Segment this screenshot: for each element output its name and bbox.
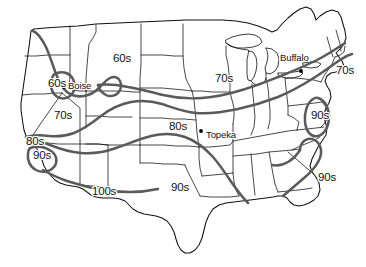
border-ar-tx-west — [185, 165, 200, 196]
border-la-south — [200, 196, 239, 197]
border-wv-va — [288, 115, 299, 130]
city-dot-topeka — [199, 129, 203, 133]
border-ne-ks — [140, 118, 196, 120]
border-pacific-nw-east — [69, 26, 70, 88]
border-al-ga-vertical — [269, 152, 278, 192]
border-oh-pa-vertical — [285, 78, 288, 115]
border-nd-sd — [141, 55, 183, 56]
border-mt-nd-vertical — [140, 24, 141, 92]
border-il-in-vertical — [251, 84, 255, 135]
border-ok-tx — [140, 163, 185, 165]
border-ia-il-vertical — [230, 92, 234, 124]
border-co-nm — [86, 144, 140, 145]
border-pa-md-ny — [285, 78, 321, 82]
border-wa-or — [25, 55, 70, 56]
border-pa-south — [288, 102, 322, 106]
isotherm-90s-southeast-tail — [272, 150, 300, 165]
border-ks-ok — [140, 145, 199, 147]
border-wy-co — [86, 116, 132, 117]
border-ms-al-vertical — [251, 154, 255, 195]
isotherm-70s-northern-tier — [98, 43, 345, 98]
isotherm-100s-southwest — [43, 170, 158, 192]
border-nd-mn-vertical — [183, 24, 192, 91]
map-canvas — [0, 0, 366, 267]
border-ia-wi-north — [226, 46, 230, 92]
border-id-east — [86, 25, 96, 91]
border-tn-south — [233, 149, 300, 156]
city-dot-boise — [62, 85, 66, 89]
border-mo-ar — [199, 147, 202, 176]
border-mn-ia — [192, 91, 230, 92]
border-ca-nv — [30, 93, 62, 140]
great-lakes-group — [226, 34, 321, 85]
city-dot-buffalo — [299, 69, 303, 73]
isotherm-70s-pacific-northwest — [33, 31, 121, 96]
border-mo-il-south — [199, 124, 233, 147]
temperature-contour-map: 60s 60s 70s 70s 70s 80s 80s 90s 90s 90s … — [0, 0, 366, 267]
border-va-nc — [297, 127, 324, 130]
border-ky-tn-north — [233, 130, 297, 141]
border-id-mt-west — [69, 88, 86, 91]
isotherm-contours-group — [26, 31, 352, 203]
isotherm-90s-southeast — [283, 139, 321, 196]
border-in-oh-vertical — [266, 78, 270, 129]
lake-huron-erie-outline — [265, 48, 279, 74]
isotherm-90s-midatlantic-closed — [305, 98, 329, 137]
border-ga-fl — [278, 188, 312, 192]
michigan-upper-peninsula-border — [226, 43, 249, 51]
lake-michigan-outline — [247, 51, 257, 81]
